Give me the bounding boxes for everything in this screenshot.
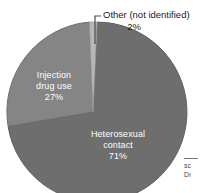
pie-callout-value-other: 2% [103, 21, 165, 32]
pie-label-heterosexual-contact-line2: contact [78, 140, 158, 151]
source-note-rule [184, 158, 198, 159]
pie-label-injection-drug-use-line1: Injection [22, 70, 86, 81]
pie-chart-figure: Injection drug use 27% Heterosexual cont… [0, 0, 201, 193]
pie-label-injection-drug-use: Injection drug use 27% [22, 70, 86, 103]
source-note-fragment: sc Dı [184, 158, 201, 179]
pie-label-injection-drug-use-line2: drug use [22, 81, 86, 92]
source-note-line1: sc [184, 161, 201, 170]
source-note-line2: Dı [184, 170, 201, 179]
pie-label-heterosexual-contact-line1: Heterosexual [78, 129, 158, 140]
pie-label-injection-drug-use-value: 27% [22, 92, 86, 103]
pie-callout-label-other: Other (not identified) [103, 9, 190, 20]
pie-label-heterosexual-contact-value: 71% [78, 151, 158, 162]
pie-label-heterosexual-contact: Heterosexual contact 71% [78, 129, 158, 162]
